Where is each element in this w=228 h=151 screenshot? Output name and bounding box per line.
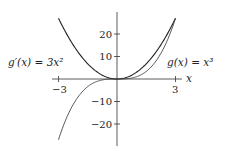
x-tick-label: −3	[52, 84, 67, 95]
derivative-label: g′(x) = 3x²	[8, 56, 64, 68]
y-tick-label: 20	[99, 29, 112, 40]
function-label: g(x) = x³	[167, 56, 213, 68]
chart: −3 3 20 10 −10 −20 x g′(x) = 3x² g(x) = …	[0, 0, 228, 151]
y-tick-label: 10	[99, 51, 112, 62]
y-tick-label: −20	[91, 119, 112, 130]
y-tick-label: −10	[91, 96, 112, 107]
x-tick-label: 3	[172, 84, 178, 95]
x-axis-label: x	[186, 72, 192, 84]
